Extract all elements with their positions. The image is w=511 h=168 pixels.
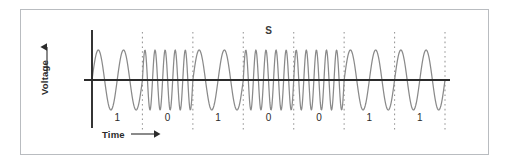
y-axis-label: Voltage xyxy=(39,41,50,115)
bit-label: 1 xyxy=(107,112,127,123)
bit-label: 1 xyxy=(410,112,430,123)
bit-label: 0 xyxy=(309,112,329,123)
fsk-waveform-plot xyxy=(0,0,511,168)
bit-label: 1 xyxy=(359,112,379,123)
y-axis-label-group: Voltage xyxy=(33,46,55,120)
bit-label: 1 xyxy=(208,112,228,123)
bit-label: 0 xyxy=(158,112,178,123)
signal-annotation-s: S xyxy=(259,25,279,36)
x-axis-label: Time xyxy=(102,129,125,140)
figure-container: Voltage Time S 1010011 xyxy=(0,0,511,168)
bit-label: 0 xyxy=(259,112,279,123)
